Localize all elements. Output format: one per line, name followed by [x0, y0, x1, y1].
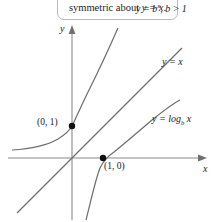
exponential-curve: [12, 28, 118, 150]
point-marker-0-1: [69, 123, 75, 129]
point-label-1-0: (1, 0): [104, 161, 125, 171]
x-axis-label: x: [203, 163, 207, 174]
identity-label-text: y = x: [162, 56, 183, 67]
figure-panel: symmetric about y = x. y =: [0, 0, 216, 222]
exponential-label-lhs: y =: [136, 3, 152, 14]
exponential-label-condition: , b > 1: [160, 3, 187, 14]
y-axis-arrow-icon: [69, 25, 76, 34]
x-axis-arrow-icon: [198, 155, 207, 162]
caption-prefix: symmetric about: [69, 2, 142, 13]
logarithm-curve-label: y = logb x: [152, 113, 191, 124]
logarithm-label-lhs: y = log: [152, 113, 181, 124]
identity-line-label: y = x: [162, 56, 183, 67]
identity-line-curve: [17, 48, 182, 213]
logarithm-label-arg: x: [184, 113, 191, 124]
point-label-0-1: (0, 1): [37, 117, 58, 127]
exponential-curve-label: y = bx, b > 1: [136, 3, 187, 14]
y-axis-label: y: [60, 23, 64, 34]
